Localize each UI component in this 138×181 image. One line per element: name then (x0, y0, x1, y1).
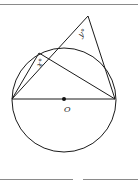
angle-x-label: x° (34, 57, 46, 69)
segment-ac (12, 53, 39, 99)
segment-pb (88, 16, 115, 99)
center-label: O (64, 105, 71, 114)
angle-y-label: y° (76, 27, 89, 40)
segment-ap (12, 16, 88, 99)
center-point (62, 97, 66, 101)
segment-cb (39, 53, 115, 99)
geometry-figure: O x° y° (0, 0, 138, 181)
